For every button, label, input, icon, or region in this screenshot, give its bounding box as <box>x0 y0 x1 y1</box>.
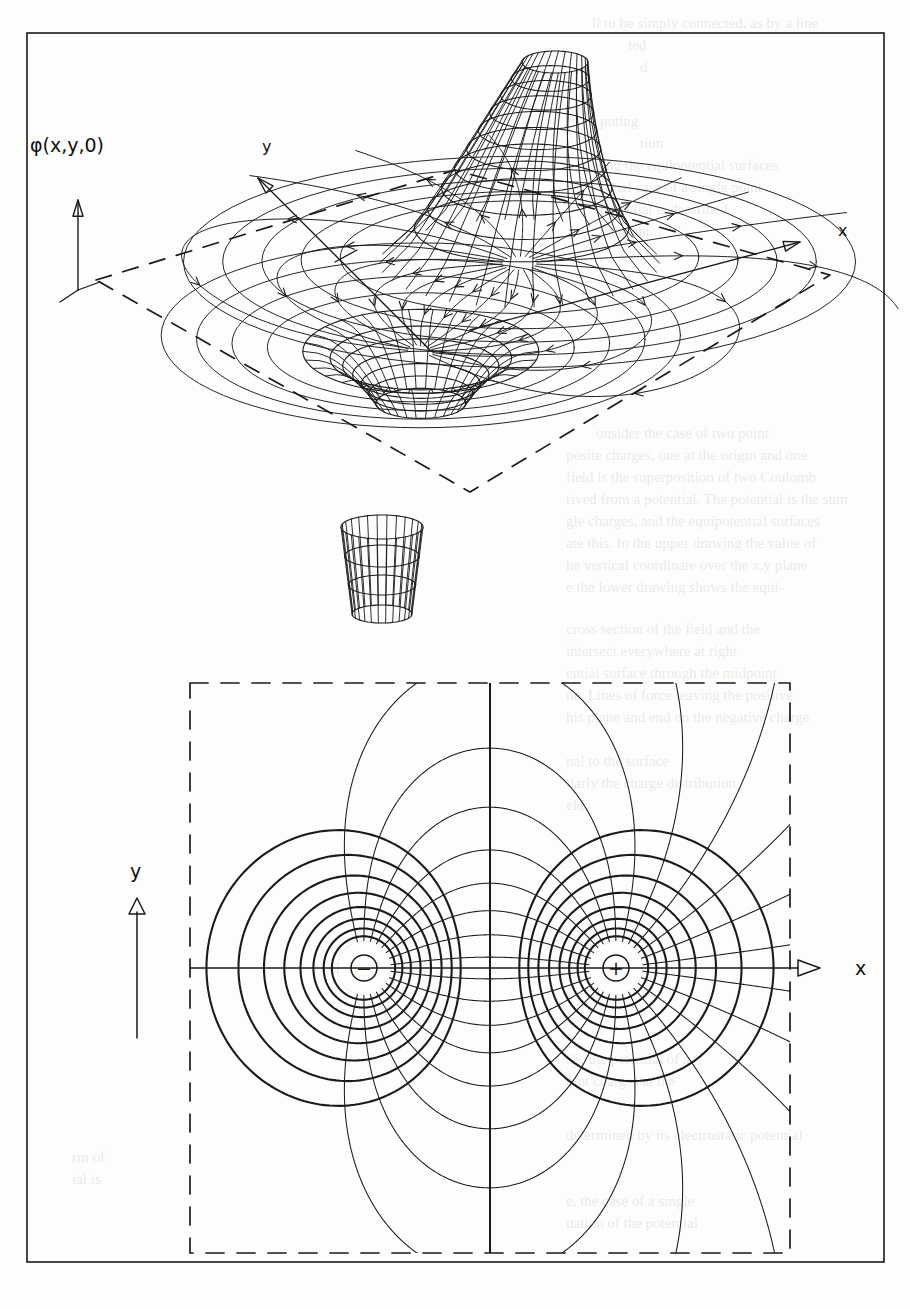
field-line <box>623 969 869 1004</box>
showthrough-line: e the lower drawing shows the equi- <box>566 579 783 595</box>
dipole-figure-svg: ll to be simply connected, as by a linet… <box>0 0 910 1309</box>
showthrough-line: onsider the case of two point <box>596 425 770 441</box>
top-y-axis-tick <box>335 250 357 262</box>
showthrough-line: puting <box>600 113 639 129</box>
peak-parallel <box>428 179 620 240</box>
showthrough-line: ilarly the charge distribution <box>566 775 737 791</box>
showthrough-line: eld <box>566 797 585 813</box>
showthrough-line: uation of the potential <box>566 1215 698 1231</box>
showthrough-line: cross section of the field and the <box>566 621 760 637</box>
showthrough-line: his plane and end on the negative charge <box>566 709 810 725</box>
well-parallel <box>353 351 489 398</box>
phi-axis-foot-left <box>60 290 78 302</box>
showthrough-line: lly, the potential of a <box>566 1051 690 1067</box>
field-line-arrow-tick <box>369 297 376 306</box>
phi-axis-foot-right <box>78 282 100 290</box>
showthrough-line: gle charges, and the equipotential surfa… <box>566 513 820 529</box>
showthrough-line: ential surface through the midpoint <box>566 665 778 681</box>
cup-parallel <box>348 575 415 595</box>
showthrough-line: field is the superposition of two Coulom… <box>566 469 816 485</box>
showthrough-line: ial is <box>72 1171 101 1187</box>
showthrough-line: rm of <box>72 1149 105 1165</box>
peak-meridian <box>450 52 539 225</box>
field-line-arrow-tick <box>531 293 538 302</box>
field-line <box>623 932 869 967</box>
ground-plane-field-line <box>402 266 503 345</box>
showthrough-line: ate this. In the upper drawing the value… <box>566 535 816 551</box>
peak-meridian <box>392 66 525 281</box>
field-line <box>623 853 869 965</box>
showthrough-line: ll to be simply connected, as by a line <box>592 15 819 31</box>
showthrough-line: tion <box>640 135 664 151</box>
phi-axis-label: φ(x,y,0) <box>30 134 104 156</box>
showthrough-line: posite charges, one at the origin and on… <box>566 447 808 463</box>
2d-field-map-panel: +− <box>129 640 869 1297</box>
cup-meridian <box>393 516 397 606</box>
top-y-axis-label: y <box>262 137 271 156</box>
cup-meridian <box>367 516 371 606</box>
bottom-y-axis-label: y <box>130 860 141 882</box>
bottom-x-axis-arrowhead <box>798 960 820 976</box>
cup-meridian <box>399 537 405 622</box>
bottom-x-axis-label: x <box>855 957 866 979</box>
peak-meridian <box>476 72 545 305</box>
showthrough-line: intersect everywhere at right <box>566 643 738 659</box>
showthrough-line: rived from a potential. The potential is… <box>566 491 848 507</box>
showthrough-line: d <box>640 59 648 75</box>
cup-parallel <box>345 545 420 567</box>
cup-meridian <box>359 537 365 622</box>
ground-plane-field-line <box>356 151 516 257</box>
showthrough-line: ne. Lines of force leaving the positive <box>566 687 793 703</box>
figure-page: ll to be simply connected, as by a linet… <box>0 0 910 1309</box>
top-x-axis-label: x <box>838 221 847 240</box>
cup-parallel <box>341 515 423 539</box>
cup-parallel <box>352 605 412 623</box>
well-parallel <box>343 339 499 393</box>
showthrough-line: ted <box>628 37 647 53</box>
showthrough-line: he vertical coordinate over the x,y plan… <box>566 557 807 573</box>
showthrough-line: e, the case of a single <box>566 1193 695 1209</box>
ground-plane-outline <box>96 170 830 492</box>
showthrough-line: determined by its electrostatic potentia… <box>566 1127 803 1143</box>
